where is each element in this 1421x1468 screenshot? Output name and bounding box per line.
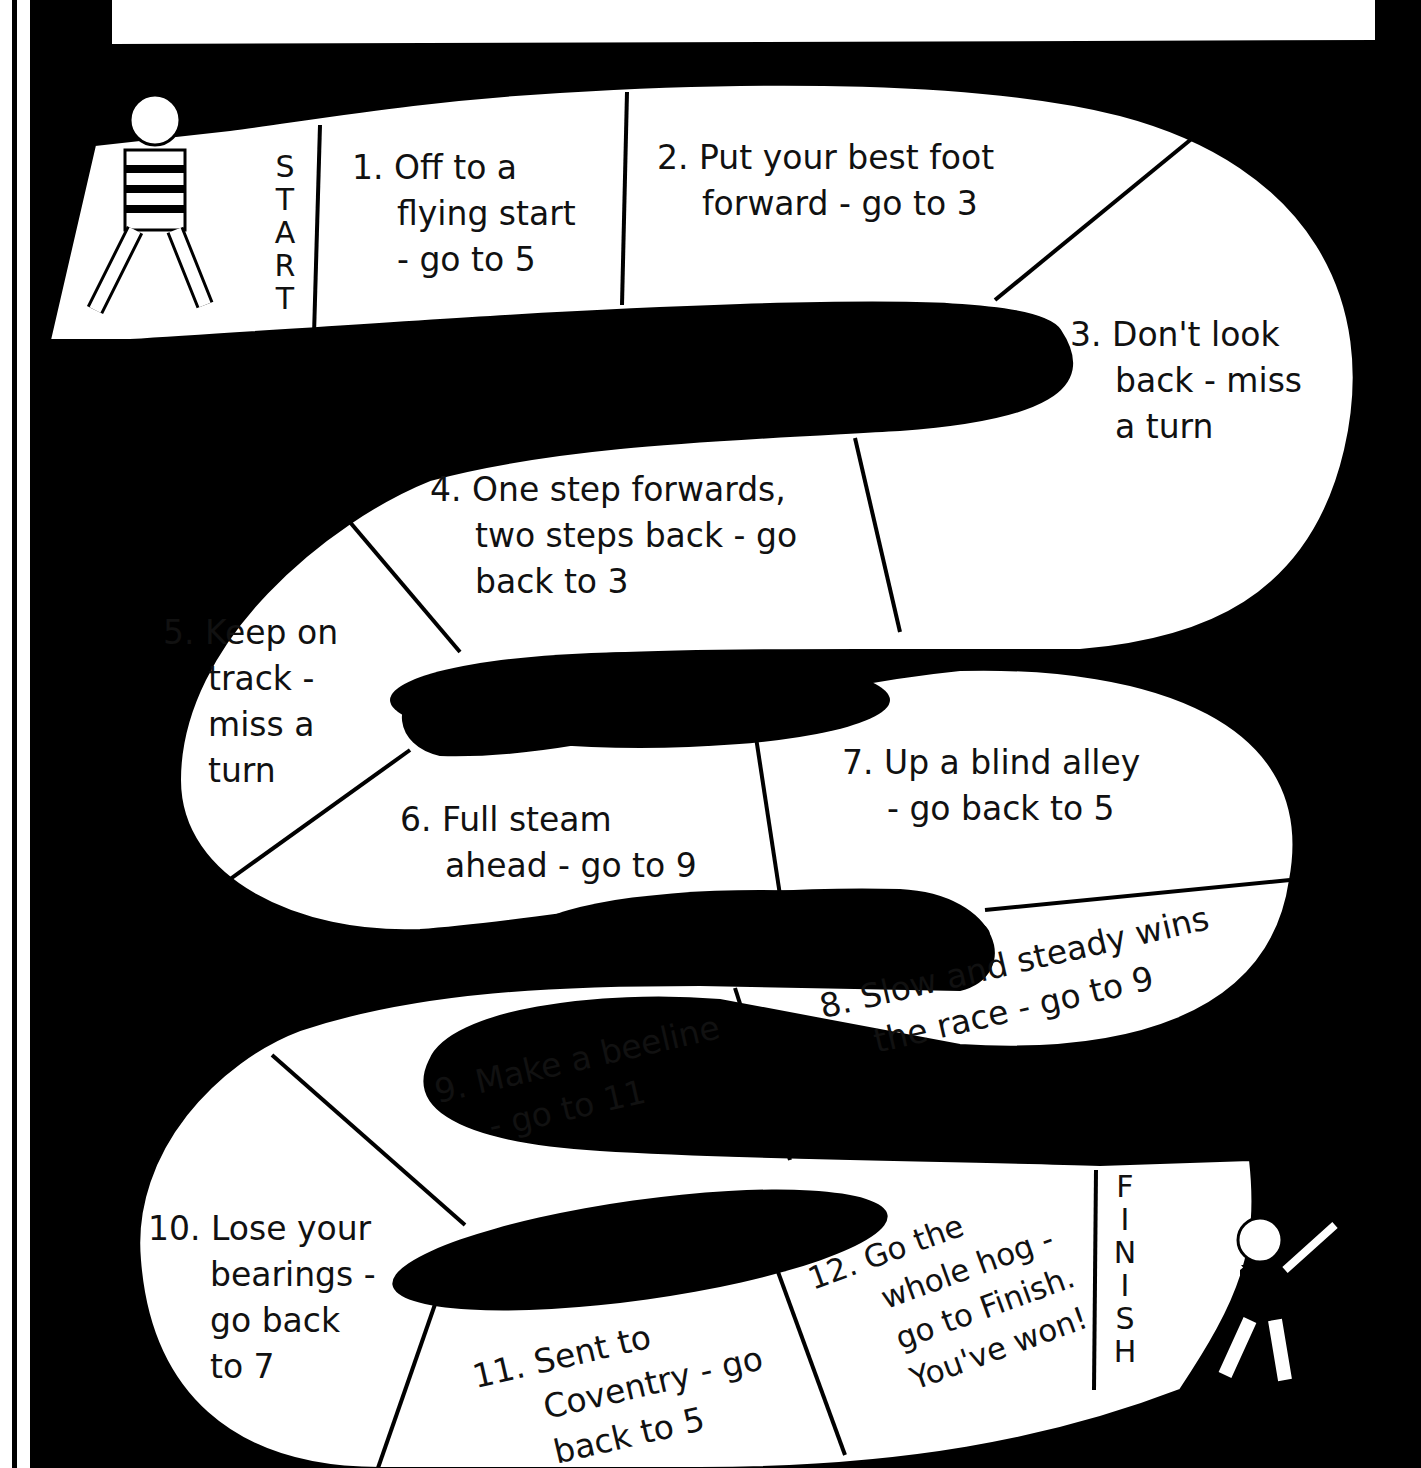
- square-1: 1. Off to a flying start - go to 5: [352, 145, 576, 283]
- square-5: 5. Keep on track - miss a turn: [163, 610, 338, 794]
- start-label: START: [268, 150, 302, 315]
- girl-cheering-illustration: [1185, 1195, 1385, 1395]
- square-6: 6. Full steam ahead - go to 9: [400, 797, 697, 889]
- square-10: 10. Lose your bearings - go back to 7: [148, 1206, 376, 1390]
- finish-label: FINISH: [1108, 1170, 1142, 1368]
- square-3: 3. Don't look back - miss a turn: [1070, 312, 1302, 450]
- square-4: 4. One step forwards, two steps back - g…: [430, 467, 797, 605]
- page-border-rule: [12, 0, 17, 1468]
- board-game: START FINISH 1. Off to a flying start - …: [30, 0, 1421, 1468]
- square-7: 7. Up a blind alley - go back to 5: [842, 740, 1140, 832]
- square-2: 2. Put your best foot forward - go to 3: [657, 135, 994, 227]
- boy-walking-illustration: [55, 80, 255, 345]
- title-panel: [112, 0, 1375, 44]
